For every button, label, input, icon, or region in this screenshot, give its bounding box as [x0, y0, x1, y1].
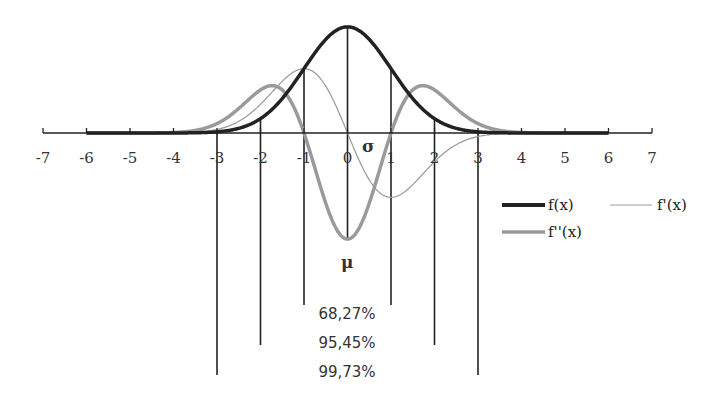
x-tick-label: 3	[473, 149, 483, 167]
legend-label-f-prime: f'(x)	[657, 196, 687, 214]
percent-1-sigma: 68,27%	[318, 305, 375, 323]
x-tick-label: 6	[604, 149, 614, 167]
x-tick-label: 5	[560, 149, 570, 167]
x-tick-label: -5	[123, 149, 138, 167]
x-tick-label: 0	[343, 149, 353, 167]
normal-distribution-chart: -7-6-5-4-3-2-101234567 σ μ 68,27% 95,45%…	[0, 0, 727, 403]
x-tick-label: -7	[36, 149, 51, 167]
mu-label: μ	[341, 252, 353, 272]
x-tick-label: -3	[210, 149, 225, 167]
x-tick-label: -4	[166, 149, 181, 167]
sigma-label: σ	[362, 136, 375, 156]
x-tick-labels: -7-6-5-4-3-2-101234567	[36, 149, 657, 167]
x-tick-label: -2	[253, 149, 268, 167]
legend-label-f: f(x)	[548, 196, 574, 214]
x-axis	[43, 128, 652, 133]
legend: f(x) f'(x) f''(x)	[502, 196, 687, 241]
percent-3-sigma: 99,73%	[318, 363, 375, 381]
x-tick-label: -6	[79, 149, 94, 167]
x-tick-label: 7	[647, 149, 657, 167]
x-tick-label: 4	[517, 149, 527, 167]
x-tick-label: -1	[297, 149, 312, 167]
legend-label-f-double-prime: f''(x)	[548, 223, 582, 241]
x-tick-label: 1	[386, 149, 396, 167]
x-tick-label: 2	[430, 149, 440, 167]
percent-2-sigma: 95,45%	[318, 334, 375, 352]
